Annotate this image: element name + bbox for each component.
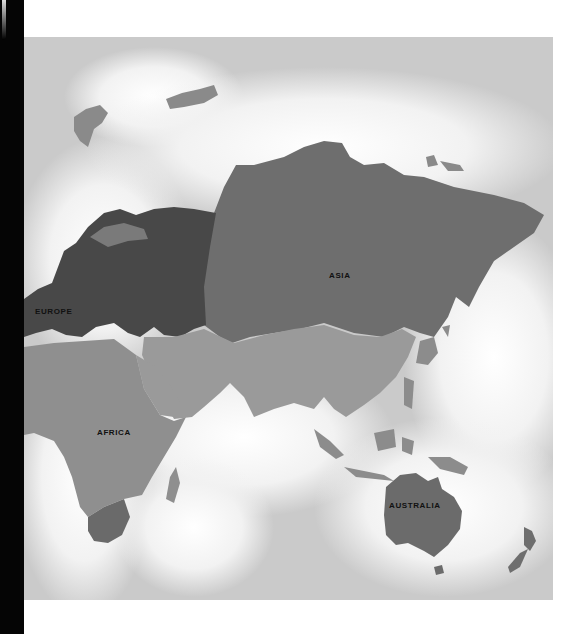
- map-graphic: [24, 37, 553, 600]
- page-binding-edge: [0, 0, 24, 634]
- label-europe: EUROPE: [35, 307, 72, 316]
- label-africa: AFRICA: [97, 428, 131, 437]
- continent-map: EUROPE ASIA AFRICA AUSTRALIA: [24, 37, 553, 600]
- label-asia: ASIA: [329, 271, 351, 280]
- label-australia: AUSTRALIA: [389, 501, 441, 510]
